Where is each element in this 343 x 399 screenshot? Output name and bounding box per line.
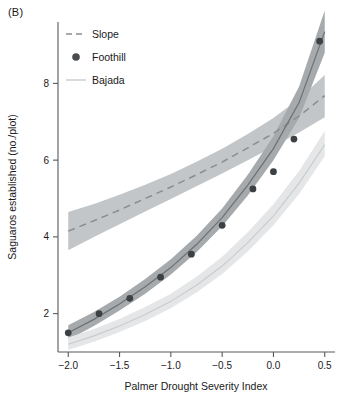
y-tick-label: 4 — [43, 231, 49, 242]
confidence-band-slope — [68, 75, 324, 250]
x-tick-label: 0.0 — [266, 360, 280, 371]
x-tick-label: −1.5 — [110, 360, 130, 371]
y-tick-label: 2 — [43, 308, 49, 319]
data-point — [219, 222, 226, 229]
chart-canvas: −2.0−1.5−1.0−0.50.00.5 2468 Palmer Droug… — [0, 0, 343, 399]
x-tick-label: 0.5 — [318, 360, 332, 371]
legend-label-bajada: Bajada — [92, 74, 125, 86]
y-axis-ticks: 2468 — [43, 78, 58, 319]
data-point — [157, 274, 164, 281]
data-point — [188, 251, 195, 258]
legend-swatch-filled-circle — [72, 53, 80, 61]
legend-label-foothill: Foothill — [92, 51, 126, 63]
y-tick-label: 6 — [43, 155, 49, 166]
chart-legend: SlopeFoothillBajada — [66, 28, 126, 86]
data-point — [270, 168, 277, 175]
figure-panel: (B) −2.0−1.5−1.0−0.50.00.5 2468 Palmer D… — [0, 0, 343, 399]
data-point — [250, 186, 257, 193]
legend-label-slope: Slope — [92, 28, 119, 40]
y-axis-title: Saguaros established (no./plot) — [6, 114, 18, 259]
data-point — [96, 310, 103, 317]
data-point — [65, 329, 72, 336]
x-tick-label: −0.5 — [212, 360, 232, 371]
data-point — [126, 295, 133, 302]
x-tick-label: −2.0 — [58, 360, 78, 371]
x-axis-title: Palmer Drought Severity Index — [125, 380, 269, 392]
y-tick-label: 8 — [43, 78, 49, 89]
x-tick-label: −1.0 — [161, 360, 181, 371]
data-point — [291, 136, 298, 143]
data-point — [316, 38, 323, 45]
x-axis-ticks: −2.0−1.5−1.0−0.50.00.5 — [58, 352, 332, 371]
